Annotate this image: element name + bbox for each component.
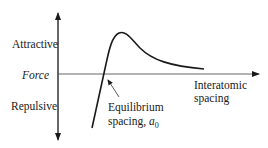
x-axis-label-line2: spacing	[194, 92, 229, 105]
force-axis-label: Force	[22, 69, 49, 82]
equilibrium-label-line2: spacing, a0	[108, 115, 159, 132]
equilibrium-label-line1: Equilibrium	[108, 101, 164, 114]
a0-subscript: 0	[155, 121, 159, 130]
spacing-prefix: spacing,	[108, 115, 149, 127]
x-axis-label-line1: Interatomic	[194, 79, 247, 92]
repulsive-label: Repulsive	[11, 100, 57, 113]
equilibrium-pointer-arrow	[108, 80, 119, 97]
attractive-label: Attractive	[12, 38, 58, 51]
